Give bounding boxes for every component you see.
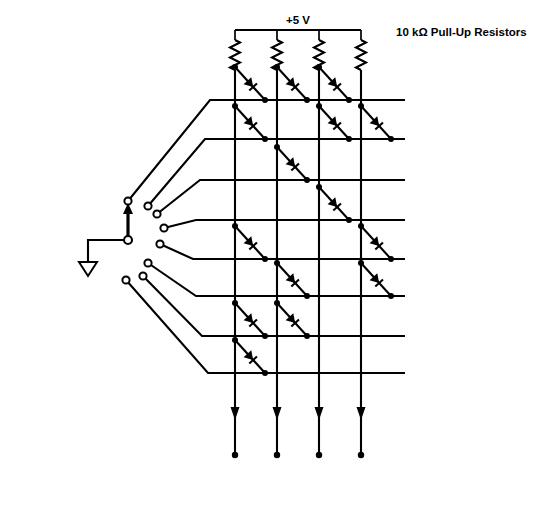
column-arrow-D1 [315,407,324,420]
row-line-4 [160,244,405,259]
row-line-2 [157,180,405,214]
diode-row4-D3 [232,223,268,262]
diode-row3-D1 [316,184,352,223]
switch-contact-7[interactable] [122,276,129,283]
diode-row0-D3 [232,64,268,103]
output-terminal-D3 [232,452,238,458]
switch-contact-1[interactable] [144,202,151,209]
diode-row1-D0 [358,103,394,142]
output-terminal-D0 [358,452,364,458]
ground-icon [79,262,97,276]
switch-contact-4[interactable] [156,240,163,247]
pull-up-resistors-group [230,40,366,70]
rotary-switch-group [79,197,168,283]
diode-row5-D2 [274,260,310,299]
pullup-resistor-0 [356,40,366,70]
labels-group: +5 V10 kΩ Pull-Up Resistors [286,14,527,38]
switch-contact-6[interactable] [139,272,146,279]
switch-contact-0[interactable] [124,197,131,204]
diode-row6-D2 [274,300,310,339]
schematic-canvas: +5 V10 kΩ Pull-Up Resistors [0,0,540,520]
resistor-annotation-label: 10 kΩ Pull-Up Resistors [396,26,527,38]
row-line-7 [126,280,405,373]
diode-row1-D1 [316,103,352,142]
column-arrow-D2 [273,407,282,420]
diode-row6-D3 [232,300,268,339]
supply-voltage-label: +5 V [286,14,310,26]
diode-row0-D2 [274,64,310,103]
diode-row0-D1 [316,64,352,103]
circuit-diagram-figure: +5 V10 kΩ Pull-Up Resistors [0,0,540,520]
row-line-3 [164,220,405,228]
column-arrow-D0 [357,407,366,420]
supply-rail-group [235,30,361,40]
diode-row2-D2 [274,144,310,183]
diode-row5-D0 [358,260,394,299]
row-line-0 [128,100,405,201]
output-terminal-D1 [316,452,322,458]
output-terminal-D2 [274,452,280,458]
diode-row4-D0 [358,223,394,262]
column-arrow-D3 [231,407,240,420]
rotary-switch-pivot[interactable] [124,236,132,244]
row-line-6 [143,276,405,336]
switch-ground-lead [88,240,124,262]
switch-contact-5[interactable] [144,259,151,266]
switch-contact-2[interactable] [153,210,160,217]
diode-row1-D3 [232,103,268,142]
switch-contact-3[interactable] [160,224,167,231]
diode-row7-D3 [232,337,268,376]
